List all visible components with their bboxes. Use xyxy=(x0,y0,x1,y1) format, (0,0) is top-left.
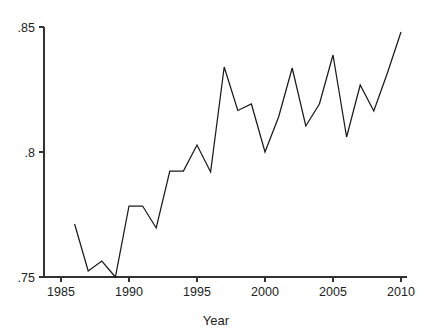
chart-canvas: .75.8.85 198519901995200020052010 Year xyxy=(0,0,433,336)
x-axis-title: Year xyxy=(203,313,230,328)
x-axis-tick-labels: 198519901995200020052010 xyxy=(47,285,415,299)
y-tick-label: .75 xyxy=(18,271,35,285)
y-axis-tick-labels: .75.8.85 xyxy=(18,21,35,285)
y-tick-label: .85 xyxy=(18,21,35,35)
x-tick-label: 1985 xyxy=(47,285,75,299)
x-tick-label: 1995 xyxy=(183,285,211,299)
x-tick-label: 2010 xyxy=(387,285,415,299)
x-tick-label: 2000 xyxy=(251,285,279,299)
x-tick-label: 2005 xyxy=(319,285,347,299)
axes-group xyxy=(44,27,407,277)
data-series-line xyxy=(75,32,401,277)
y-tick-label: .8 xyxy=(25,146,35,160)
y-axis-tick-marks xyxy=(39,27,44,277)
x-tick-label: 1990 xyxy=(115,285,143,299)
x-axis-tick-marks xyxy=(61,277,401,282)
line-chart: .75.8.85 198519901995200020052010 Year xyxy=(0,0,433,336)
